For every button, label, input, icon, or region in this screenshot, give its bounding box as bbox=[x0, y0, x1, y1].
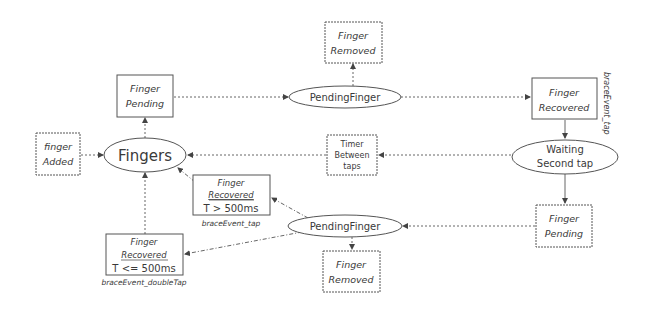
node-label: Timer bbox=[340, 140, 365, 149]
node-condition: T > 500ms bbox=[203, 203, 259, 214]
node-label: Removed bbox=[328, 274, 374, 285]
node-fingers: Fingers bbox=[104, 138, 186, 172]
node-label: Waiting bbox=[546, 144, 584, 155]
node-finger-removed-bottom: Finger Removed bbox=[323, 251, 380, 292]
node-label: Added bbox=[42, 156, 74, 167]
node-finger-recovered-gt-500: Finger Recovered T > 500ms braceEvent_ta… bbox=[193, 175, 270, 228]
node-label: Finger bbox=[549, 87, 580, 98]
node-label: Finger bbox=[549, 213, 580, 224]
node-finger-recovered-top: Finger Recovered braceEvent_tap bbox=[532, 72, 611, 135]
node-pendingfinger-top: PendingFinger bbox=[289, 86, 401, 108]
node-pendingfinger-bottom: PendingFinger bbox=[288, 215, 402, 237]
node-caption: braceEvent_tap bbox=[202, 219, 261, 228]
node-finger-recovered-le-500: Finger Recovered T <= 500ms braceEvent_d… bbox=[101, 234, 186, 287]
edge-pendingfinger-to-recovered-gt bbox=[272, 198, 308, 218]
node-label: Pending bbox=[126, 98, 164, 109]
node-label: Finger bbox=[131, 237, 158, 247]
node-finger-pending-bottom: Finger Pending bbox=[536, 205, 592, 247]
node-label: Fingers bbox=[118, 147, 172, 165]
node-label: Between bbox=[334, 151, 369, 160]
node-timer-between-taps: Timer Between taps bbox=[327, 135, 377, 175]
node-finger-added: finger Added bbox=[36, 133, 80, 175]
node-label: Recovered bbox=[121, 250, 167, 260]
node-label: Recovered bbox=[208, 190, 254, 200]
node-label: PendingFinger bbox=[310, 92, 382, 103]
node-label: Removed bbox=[330, 45, 376, 56]
node-label: PendingFinger bbox=[310, 221, 382, 232]
node-label: Recovered bbox=[539, 102, 591, 113]
node-label: taps bbox=[343, 162, 360, 171]
node-label: Second tap bbox=[537, 158, 593, 169]
node-side-label: braceEvent_tap bbox=[602, 72, 611, 135]
node-caption: braceEvent_doubleTap bbox=[101, 278, 186, 287]
node-finger-removed-top: Finger Removed bbox=[325, 22, 382, 63]
node-label: finger bbox=[44, 141, 73, 152]
edge-pendingfinger-to-recovered-le bbox=[185, 232, 302, 254]
node-label: Finger bbox=[218, 178, 245, 188]
node-label: Finger bbox=[338, 30, 369, 41]
state-diagram: finger Added Fingers Finger Pending Fing… bbox=[0, 0, 646, 310]
node-finger-pending-top: Finger Pending bbox=[117, 75, 173, 117]
node-condition: T <= 500ms bbox=[111, 263, 175, 274]
node-waiting-second-tap: Waiting Second tap bbox=[512, 140, 618, 174]
node-label: Finger bbox=[130, 83, 161, 94]
edge-recovered-gt-to-fingers bbox=[178, 168, 195, 182]
node-label: Finger bbox=[336, 259, 367, 270]
node-label: Pending bbox=[545, 228, 583, 239]
